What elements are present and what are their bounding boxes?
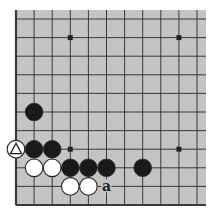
labels-layer: a	[102, 178, 112, 194]
white-stone	[7, 140, 25, 158]
star-point	[68, 35, 73, 40]
white-stone	[80, 178, 98, 196]
star-point	[68, 147, 73, 152]
black-stone	[25, 103, 43, 121]
black-stone	[43, 140, 61, 158]
white-stone	[43, 159, 61, 177]
point-label: a	[102, 178, 111, 194]
star-point	[176, 147, 181, 152]
black-stone	[80, 159, 98, 177]
black-stone	[62, 159, 80, 177]
black-stone	[98, 159, 116, 177]
white-stone	[62, 178, 80, 196]
black-stone	[134, 159, 152, 177]
white-stone	[25, 159, 43, 177]
black-stone	[25, 140, 43, 158]
star-point	[176, 35, 181, 40]
go-board-diagram: a	[0, 0, 218, 213]
